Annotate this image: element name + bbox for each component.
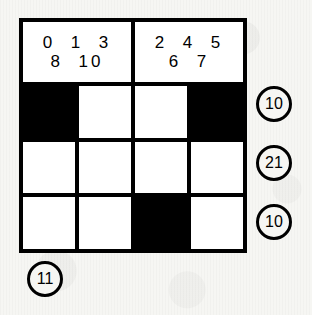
grid-cell-r3c1[interactable] <box>23 197 75 249</box>
puzzle-grid: 0 1 3 8 10 2 4 5 6 7 <box>19 18 247 253</box>
grid-cell-r1c3[interactable] <box>135 86 187 138</box>
column-clue-1: 11 <box>27 261 63 297</box>
row-clue-3: 10 <box>256 204 292 240</box>
grid-cell-r2c1[interactable] <box>23 142 75 194</box>
grid-cell-r2c4[interactable] <box>191 142 243 194</box>
grid-cell-r1c4[interactable] <box>191 86 243 138</box>
row-clue-2: 21 <box>256 145 292 181</box>
grid-cell-r3c3[interactable] <box>135 197 187 249</box>
row-clue-1: 10 <box>256 86 292 122</box>
grid-cell-r2c2[interactable] <box>79 142 131 194</box>
grid-cell-r3c4[interactable] <box>191 197 243 249</box>
left-header-line-2: 8 10 <box>51 52 104 71</box>
grid-cell-r1c1[interactable] <box>23 86 75 138</box>
left-header-line-1: 0 1 3 <box>43 33 111 52</box>
right-header-line-1: 2 4 5 <box>155 33 223 52</box>
grid-cell-r2c3[interactable] <box>135 142 187 194</box>
left-header-cell: 0 1 3 8 10 <box>23 22 131 82</box>
right-header-cell: 2 4 5 6 7 <box>135 22 243 82</box>
grid-cell-r3c2[interactable] <box>79 197 131 249</box>
right-header-line-2: 6 7 <box>169 52 209 71</box>
grid-cell-r1c2[interactable] <box>79 86 131 138</box>
